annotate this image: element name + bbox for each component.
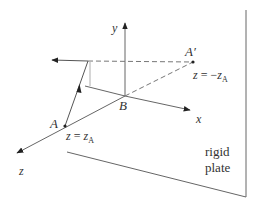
rigid-plate-diagram: y x z B A A′ z = zA z = −zA rigid plate bbox=[0, 0, 261, 207]
point-b-label: B bbox=[119, 98, 127, 113]
a-condition-label: z = zA bbox=[65, 129, 94, 145]
construction-lines bbox=[85, 62, 125, 96]
point-a-prime-label: A′ bbox=[184, 44, 196, 59]
x-axis-label: x bbox=[195, 112, 202, 126]
point-a-prime bbox=[191, 60, 194, 63]
a-prime-condition-label: z = −zA bbox=[192, 68, 228, 84]
x-axis bbox=[125, 96, 190, 110]
vector-from-a bbox=[65, 61, 88, 126]
point-a bbox=[63, 124, 66, 127]
z-axis bbox=[17, 96, 125, 153]
y-axis-label: y bbox=[111, 21, 118, 35]
rigid-plate-label-line1: rigid bbox=[205, 144, 230, 159]
point-a-label: A bbox=[49, 116, 58, 131]
rigid-plate-label-line2: plate bbox=[205, 160, 230, 175]
horizontal-vector bbox=[52, 60, 88, 61]
z-axis-label: z bbox=[18, 164, 24, 178]
